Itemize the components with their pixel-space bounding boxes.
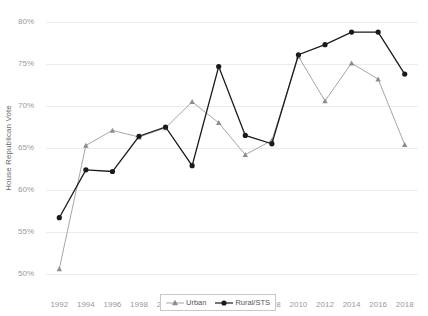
legend: Urban Rural/STS	[160, 294, 276, 311]
data-point	[349, 29, 354, 34]
data-point	[376, 29, 381, 34]
data-point	[349, 60, 354, 65]
x-axis-tick-label: 2018	[388, 300, 422, 309]
y-axis-tick-label: 65%	[6, 143, 34, 152]
data-point	[189, 99, 194, 104]
gridline	[46, 274, 418, 275]
y-axis-tick-label: 80%	[6, 17, 34, 26]
data-point	[216, 64, 221, 69]
data-point	[322, 42, 327, 47]
series-layer	[46, 22, 418, 274]
y-axis-tick-label: 50%	[6, 269, 34, 278]
legend-swatch-urban	[166, 299, 184, 307]
data-point	[269, 141, 274, 146]
y-axis-tick-label: 60%	[6, 185, 34, 194]
legend-label-urban: Urban	[186, 298, 206, 307]
data-point	[83, 143, 88, 148]
data-point	[163, 124, 168, 129]
data-point	[402, 142, 407, 147]
legend-item-rural[interactable]: Rural/STS	[215, 298, 270, 307]
y-axis-tick-label: 75%	[6, 59, 34, 68]
data-point	[110, 128, 115, 133]
chart-container: House Republican Vote 50%55%60%65%70%75%…	[0, 0, 428, 316]
series-line-rural-sts	[59, 32, 404, 218]
data-point	[83, 167, 88, 172]
legend-item-urban[interactable]: Urban	[166, 298, 206, 307]
data-point	[136, 134, 141, 139]
data-point	[402, 71, 407, 76]
data-point	[57, 215, 62, 220]
plot-area: 50%55%60%65%70%75%80% 199219941996199820…	[46, 22, 418, 274]
y-axis-tick-label: 70%	[6, 101, 34, 110]
data-point	[296, 52, 301, 57]
legend-swatch-rural	[215, 299, 233, 307]
legend-label-rural: Rural/STS	[235, 298, 270, 307]
data-point	[110, 169, 115, 174]
data-point	[57, 266, 62, 271]
data-point	[375, 76, 380, 81]
data-point	[243, 133, 248, 138]
y-axis-tick-label: 55%	[6, 227, 34, 236]
series-line-urban	[59, 56, 404, 269]
data-point	[190, 163, 195, 168]
